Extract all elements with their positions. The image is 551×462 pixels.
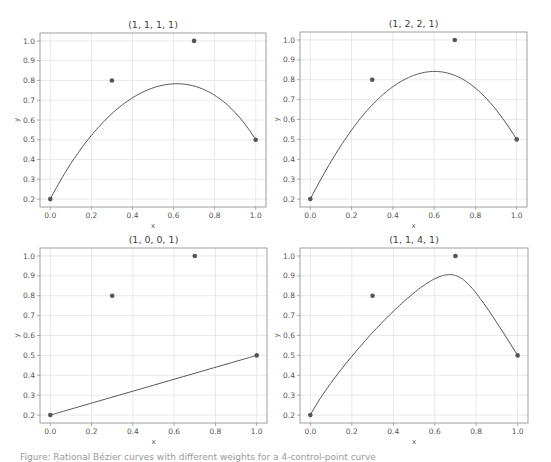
grid-lines	[300, 248, 528, 423]
x-tick-label: 1.0	[512, 427, 524, 436]
subplot-title: (1, 1, 4, 1)	[389, 234, 439, 245]
y-tick-label: 0.3	[283, 391, 295, 400]
y-tick-label: 0.7	[283, 311, 295, 320]
figure-caption: Figure: Rational Bézier curves with diff…	[20, 452, 540, 462]
subplot-bottom-right: 0.00.20.40.60.81.00.20.30.40.50.60.70.80…	[0, 0, 551, 450]
y-tick-label: 0.5	[283, 351, 295, 360]
y-tick-label: 0.4	[283, 371, 295, 380]
x-tick-label: 0.4	[387, 427, 399, 436]
y-tick-label: 0.2	[283, 411, 295, 420]
y-tick-label: 1.0	[283, 252, 295, 261]
control-point-marker	[453, 254, 458, 259]
x-tick-label: 0.2	[346, 427, 358, 436]
chart-svg: 0.00.20.40.60.81.00.20.30.40.50.60.70.80…	[0, 0, 551, 450]
y-tick-label: 0.6	[283, 331, 295, 340]
x-axis-label: x	[412, 438, 416, 446]
y-tick-label: 0.8	[283, 291, 295, 300]
x-tick-label: 0.0	[304, 427, 316, 436]
x-tick-label: 0.8	[470, 427, 482, 436]
y-tick-label: 0.9	[283, 271, 295, 280]
control-point-marker	[308, 413, 313, 418]
x-tick-label: 0.6	[429, 427, 441, 436]
control-point-marker	[515, 353, 520, 358]
y-axis-label: y	[273, 333, 281, 337]
control-point-marker	[370, 293, 375, 298]
